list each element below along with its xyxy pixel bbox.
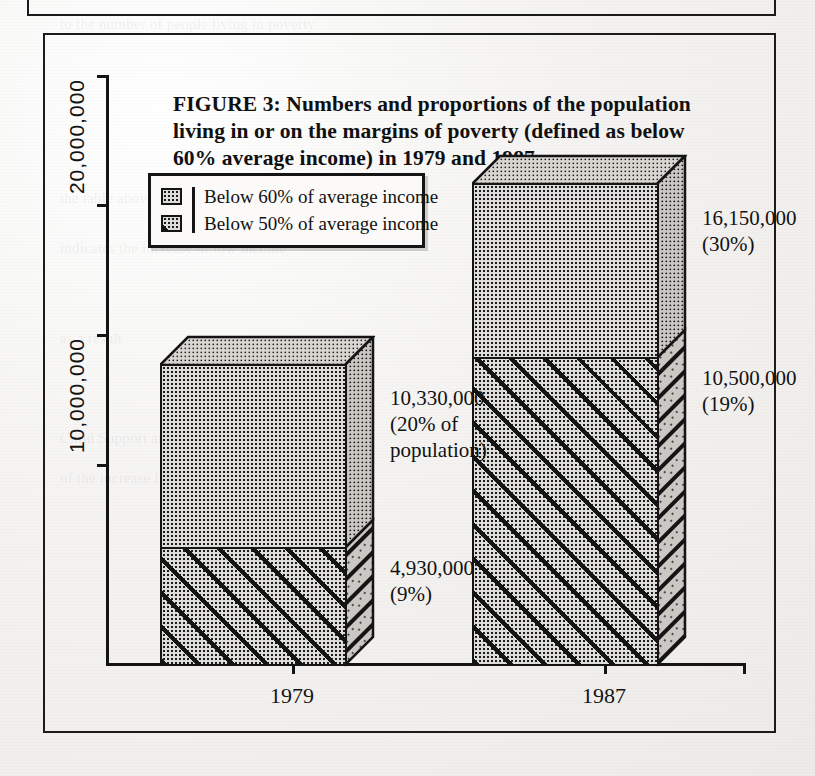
x-axis-category-1987: 1987 bbox=[564, 683, 644, 709]
legend-swatch-column bbox=[161, 183, 190, 237]
preceding-table-frame bbox=[27, 0, 776, 16]
figure-title-line-1: FIGURE 3: Numbers and proportions of the… bbox=[173, 91, 733, 118]
legend-item-below-60-label: Below 60% of average income bbox=[204, 183, 438, 210]
bar-1987-side-face bbox=[657, 156, 688, 668]
x-axis-category-1979: 1979 bbox=[252, 683, 332, 709]
legend-swatch-dots-icon bbox=[161, 188, 182, 205]
callout-1979-below-50: 4,930,000 (9%) bbox=[390, 555, 474, 607]
bar-1987[interactable] bbox=[472, 154, 687, 666]
bar-1987-top-face bbox=[472, 154, 687, 186]
bar-1987-segment-below-60[interactable] bbox=[472, 183, 659, 359]
bar-1979-segment-below-50[interactable] bbox=[160, 547, 347, 666]
y-axis-label-20m: 20,000,000 bbox=[65, 79, 89, 194]
legend-divider bbox=[192, 187, 195, 233]
legend-text-column: Below 60% of average income Below 50% of… bbox=[204, 183, 438, 237]
y-axis-tick-20m bbox=[97, 75, 109, 78]
legend-swatch-cell-below-60 bbox=[161, 183, 190, 210]
bar-1979-top-face bbox=[160, 335, 375, 367]
y-axis-label-10m: 10,000,000 bbox=[65, 338, 89, 453]
y-axis-tick-5m bbox=[97, 464, 109, 467]
callout-1979-below-60: 10,330,000 (20% of population) bbox=[390, 385, 487, 463]
figure-title-line-2: living in or on the margins of poverty (… bbox=[173, 118, 733, 145]
legend-swatch-cell-below-50 bbox=[161, 210, 190, 237]
chart-legend[interactable]: Below 60% of average income Below 50% of… bbox=[148, 173, 425, 248]
chart-plot-area: FIGURE 3: Numbers and proportions of the… bbox=[45, 35, 778, 735]
legend-item-below-50-label: Below 50% of average income bbox=[204, 210, 438, 237]
y-axis-tick-15m bbox=[97, 204, 109, 207]
figure-frame: FIGURE 3: Numbers and proportions of the… bbox=[43, 33, 776, 733]
callout-1987-below-60: 16,150,000 (30%) bbox=[702, 205, 797, 257]
legend-swatch-hatch-icon bbox=[161, 215, 182, 232]
bar-1979-side-face bbox=[345, 337, 376, 668]
x-axis-tick-end bbox=[743, 663, 746, 674]
bar-1987-segment-below-50[interactable] bbox=[472, 357, 659, 666]
bar-1979[interactable] bbox=[160, 335, 375, 666]
callout-1987-below-50: 10,500,000 (19%) bbox=[702, 365, 797, 417]
y-axis-tick-10m bbox=[97, 334, 109, 337]
legend-inner: Below 60% of average income Below 50% of… bbox=[161, 183, 412, 237]
y-axis-line bbox=[106, 75, 109, 665]
bar-1979-segment-below-60[interactable] bbox=[160, 364, 347, 549]
